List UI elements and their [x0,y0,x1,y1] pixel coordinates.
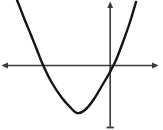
graph-canvas [0,0,163,130]
y-axis-bottom-cap [107,127,114,129]
parabola-graph-figure [0,0,163,130]
